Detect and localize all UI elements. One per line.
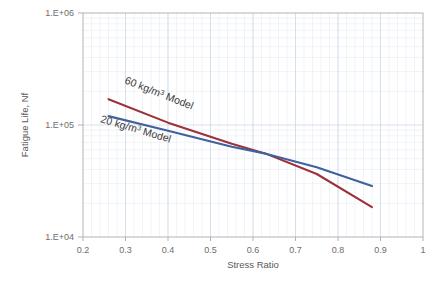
x-axis-title: Stress Ratio: [227, 259, 279, 270]
fatigue-life-chart: 0.20.30.40.50.60.70.80.91 1.E+041.E+051.…: [0, 0, 443, 281]
y-tick-label: 1.E+06: [45, 8, 74, 18]
x-tick-label: 0.4: [162, 245, 175, 255]
x-tick-label: 0.5: [204, 245, 217, 255]
x-tick-label: 1: [420, 245, 425, 255]
x-tick-label: 0.7: [289, 245, 302, 255]
chart-canvas: 0.20.30.40.50.60.70.80.91 1.E+041.E+051.…: [0, 0, 443, 281]
x-tick-label: 0.8: [332, 245, 345, 255]
x-tick-label: 0.2: [77, 245, 90, 255]
x-tick-label: 0.6: [247, 245, 260, 255]
x-tick-label: 0.9: [374, 245, 387, 255]
y-tick-label: 1.E+05: [45, 120, 74, 130]
y-axis-title: Fatigue Life, Nf: [19, 92, 30, 157]
y-tick-label: 1.E+04: [45, 232, 74, 242]
x-tick-label: 0.3: [119, 245, 132, 255]
